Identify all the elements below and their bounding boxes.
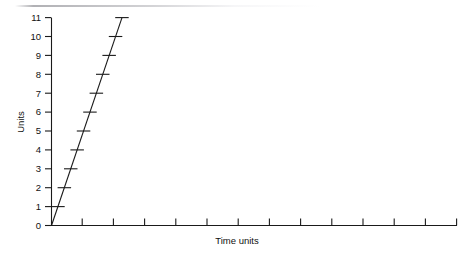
data-point-markers [51,18,129,207]
y-axis-title: Units [15,111,26,133]
data-series-line [52,18,123,226]
y-tick-label-10: 10 [30,31,41,42]
y-tick-label-3: 3 [36,163,41,174]
y-tick-label-6: 6 [36,106,41,117]
line-chart-plot: 0 1 2 3 4 5 6 7 8 9 10 11 [0,0,474,255]
y-tick-label-2: 2 [36,182,41,193]
y-tick-label-1: 1 [36,201,41,212]
y-tick-label-5: 5 [36,125,41,136]
chart-axes [52,18,458,226]
y-tick-label-11: 11 [31,12,41,23]
y-tick-label-8: 8 [36,69,41,80]
x-axis-title: Time units [215,235,259,246]
y-tick-label-7: 7 [36,88,41,99]
y-tick-label-9: 9 [36,50,41,61]
x-axis-ticks [82,219,456,226]
y-axis-tick-labels: 0 1 2 3 4 5 6 7 8 9 10 11 [30,12,41,231]
y-tick-label-0: 0 [36,220,41,231]
y-tick-label-4: 4 [36,144,41,155]
y-axis-ticks [45,18,52,226]
chart-figure: 0 1 2 3 4 5 6 7 8 9 10 11 [0,0,474,255]
